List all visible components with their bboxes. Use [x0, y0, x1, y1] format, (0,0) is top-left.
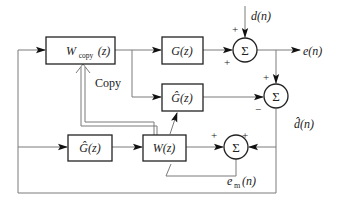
signal-wires [18, 6, 300, 193]
sign-sum3-left: + [211, 129, 217, 141]
plant-label: G(z) [171, 44, 192, 58]
copy-annotation: Copy [95, 76, 121, 90]
wcopy-label-arg: (z) [98, 44, 111, 58]
sign-sum1-top: + [232, 23, 238, 35]
copy-double-arrow [76, 64, 157, 135]
wcopy-label-main: W [66, 44, 77, 58]
model-error-label-sub: m [234, 181, 241, 190]
sigma-2: Σ [272, 89, 280, 104]
sign-sum2-top: + [263, 71, 269, 83]
disturbance-estimate-label: d̂(n) [294, 117, 314, 131]
wcopy-label-sub: copy [79, 51, 94, 60]
plant-estimate-lower-label: Ĝ(z) [79, 141, 100, 155]
sigma-3: Σ [232, 140, 240, 155]
block-diagram: Σ Σ Σ + + + − + + W copy (z) G(z) Ĝ(z) Ĝ… [0, 0, 344, 201]
plant-estimate-upper-label: Ĝ(z) [171, 91, 192, 105]
model-error-label-arg: (n) [242, 174, 256, 188]
sign-sum3-right: + [242, 129, 248, 141]
disturbance-label: d(n) [251, 9, 271, 23]
error-label: e(n) [303, 44, 322, 58]
model-error-label-main: e [227, 174, 233, 188]
sign-sum2-left: − [255, 103, 261, 115]
adaptive-filter-label: W(z) [153, 141, 176, 155]
sign-sum1-left: + [224, 56, 230, 68]
sigma-1: Σ [241, 43, 249, 58]
